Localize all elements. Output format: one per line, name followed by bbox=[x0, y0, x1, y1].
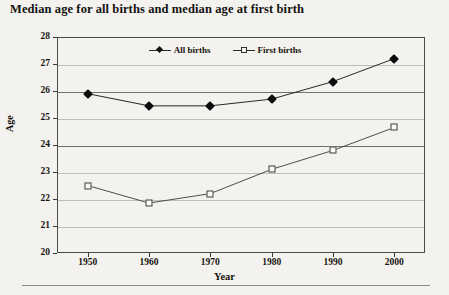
y-tick-mark bbox=[53, 37, 57, 38]
y-tick-mark bbox=[53, 64, 57, 65]
y-tick-label: 21 bbox=[28, 220, 50, 230]
x-tick-label: 2000 bbox=[374, 257, 414, 267]
y-tick-mark bbox=[53, 226, 57, 227]
y-tick-mark bbox=[53, 91, 57, 92]
y-tick-mark bbox=[53, 172, 57, 173]
x-tick-label: 1950 bbox=[68, 257, 108, 267]
y-tick-mark bbox=[53, 199, 57, 200]
page-title: Median age for all births and median age… bbox=[10, 2, 440, 17]
x-axis-title: Year bbox=[0, 271, 449, 282]
y-tick-mark bbox=[53, 118, 57, 119]
y-tick-label: 24 bbox=[28, 139, 50, 149]
x-tick-label: 1990 bbox=[313, 257, 353, 267]
y-tick-label: 22 bbox=[28, 193, 50, 203]
chart-figure: Age All births First births 202122232425… bbox=[0, 28, 449, 268]
x-tick-label: 1970 bbox=[190, 257, 230, 267]
y-tick-label: 23 bbox=[28, 166, 50, 176]
series-lines bbox=[0, 28, 449, 268]
x-tick-label: 1960 bbox=[129, 257, 169, 267]
y-tick-label: 25 bbox=[28, 112, 50, 122]
x-tick-label: 1980 bbox=[252, 257, 292, 267]
series-line-all-births bbox=[88, 59, 395, 106]
y-tick-mark bbox=[53, 145, 57, 146]
y-tick-label: 28 bbox=[28, 31, 50, 41]
page-divider bbox=[22, 285, 430, 286]
series-line-first-births bbox=[88, 127, 395, 203]
y-tick-label: 27 bbox=[28, 58, 50, 68]
y-tick-mark bbox=[53, 253, 57, 254]
y-tick-label: 20 bbox=[28, 247, 50, 257]
y-tick-label: 26 bbox=[28, 85, 50, 95]
